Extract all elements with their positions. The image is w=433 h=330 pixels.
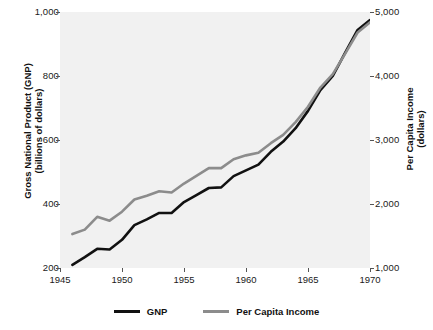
chart-legend: GNPPer Capita Income <box>0 306 433 317</box>
y-axis-right-tick-mark <box>370 12 374 13</box>
legend-swatch-line-icon <box>203 310 229 313</box>
x-axis-tick-label: 1945 <box>49 274 70 285</box>
legend-label: GNP <box>147 306 168 317</box>
x-axis-tick-mark <box>60 268 61 272</box>
y-axis-right-tick-mark <box>370 140 374 141</box>
y-axis-right-title: Per Capita Income (dollars) <box>404 54 426 204</box>
x-axis-tick-label: 1965 <box>297 274 318 285</box>
plot-area <box>60 12 370 268</box>
x-axis-tick-label: 1970 <box>359 274 380 285</box>
y-axis-right-tick-label: 3,000 <box>375 134 399 145</box>
y-axis-right-tick-label: 4,000 <box>375 70 399 81</box>
y-axis-left-title-line2: (billions of dollars) <box>33 46 44 216</box>
y-axis-right-tick-mark <box>370 76 374 77</box>
x-axis-tick-mark <box>184 268 185 272</box>
legend-item[interactable]: Per Capita Income <box>203 306 319 317</box>
series-line-gnp <box>72 20 370 265</box>
x-axis-tick-mark <box>122 268 123 272</box>
legend-swatch-line-icon <box>114 310 140 313</box>
x-axis-tick-mark <box>370 268 371 272</box>
y-axis-left-title: Gross National Product (GNP) (billions o… <box>22 46 44 216</box>
y-axis-left-tick-mark <box>56 12 60 13</box>
y-axis-left-title-line1: Gross National Product (GNP) <box>22 46 33 216</box>
x-axis-tick-label: 1960 <box>235 274 256 285</box>
y-axis-right-tick-label: 2,000 <box>375 198 399 209</box>
y-axis-left-tick-mark <box>56 204 60 205</box>
y-axis-left-tick-mark <box>56 140 60 141</box>
y-axis-right-tick-label: 5,000 <box>375 6 399 17</box>
dual-axis-line-chart: 2004006008001,000 1,0002,0003,0004,0005,… <box>0 0 433 330</box>
plot-lines-svg <box>60 12 370 268</box>
y-axis-left-tick-mark <box>56 76 60 77</box>
y-axis-right-title-line2: (dollars) <box>415 54 426 204</box>
x-axis-tick-label: 1955 <box>173 274 194 285</box>
x-axis-tick-label: 1950 <box>111 274 132 285</box>
x-axis-tick-mark <box>308 268 309 272</box>
legend-label: Per Capita Income <box>236 306 319 317</box>
y-axis-right-tick-label: 1,000 <box>375 262 399 273</box>
y-axis-right-title-line1: Per Capita Income <box>404 54 415 204</box>
legend-item[interactable]: GNP <box>114 306 168 317</box>
series-line-per-capita-income <box>72 22 370 234</box>
x-axis-tick-mark <box>246 268 247 272</box>
y-axis-right-tick-mark <box>370 204 374 205</box>
